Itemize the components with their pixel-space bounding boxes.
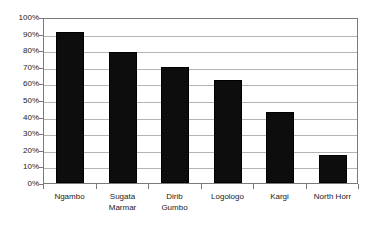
x-tick-label: Logologo: [201, 191, 254, 202]
x-tick-mark: [201, 184, 202, 189]
y-tick-label: 80%: [0, 47, 39, 55]
x-tick-label-line: Ngambo: [43, 191, 96, 202]
y-tick-label: 0%: [0, 180, 39, 188]
x-tick-label-line: Logologo: [201, 191, 254, 202]
x-tick-mark: [253, 184, 254, 189]
plot-area: [43, 18, 358, 184]
y-tick-label: 10%: [0, 163, 39, 171]
y-tick-label: 30%: [0, 130, 39, 138]
x-tick-label-line: Sugata: [96, 191, 149, 202]
x-tick-mark: [43, 184, 44, 189]
y-tick-label: 50%: [0, 97, 39, 105]
x-tick-mark: [96, 184, 97, 189]
gridline: [44, 135, 357, 136]
x-tick-label-line: Dirib: [148, 191, 201, 202]
y-tick-label: 40%: [0, 114, 39, 122]
bar: [161, 67, 189, 183]
gridline: [44, 102, 357, 103]
x-tick-label: Kargi: [253, 191, 306, 202]
y-tick-label: 100%: [0, 14, 39, 22]
bar: [319, 155, 347, 183]
x-tick-label: Ngambo: [43, 191, 96, 202]
y-axis: 100%90%80%70%60%50%40%30%20%10%0%: [0, 0, 39, 227]
gridline: [44, 69, 357, 70]
y-tick-label: 90%: [0, 31, 39, 39]
x-tick-label-line: Kargi: [253, 191, 306, 202]
x-tick-label: North Horr: [306, 191, 359, 202]
x-tick-label-line: Gumbo: [148, 202, 201, 213]
x-tick-label: SugataMarmar: [96, 191, 149, 213]
bar: [214, 80, 242, 183]
gridline: [44, 85, 357, 86]
gridline: [44, 152, 357, 153]
gridline: [44, 119, 357, 120]
gridline: [44, 36, 357, 37]
bar-chart: 100%90%80%70%60%50%40%30%20%10%0% Ngambo…: [0, 0, 375, 227]
bar: [266, 112, 294, 183]
x-tick-label: DiribGumbo: [148, 191, 201, 213]
y-tick-label: 20%: [0, 147, 39, 155]
gridline: [44, 52, 357, 53]
y-tick-label: 70%: [0, 64, 39, 72]
x-tick-mark: [306, 184, 307, 189]
bar: [109, 52, 137, 183]
y-tick-label: 60%: [0, 80, 39, 88]
gridline: [44, 168, 357, 169]
x-tick-label-line: North Horr: [306, 191, 359, 202]
x-tick-mark: [358, 184, 359, 189]
x-tick-mark: [148, 184, 149, 189]
bar: [56, 32, 84, 183]
x-tick-label-line: Marmar: [96, 202, 149, 213]
